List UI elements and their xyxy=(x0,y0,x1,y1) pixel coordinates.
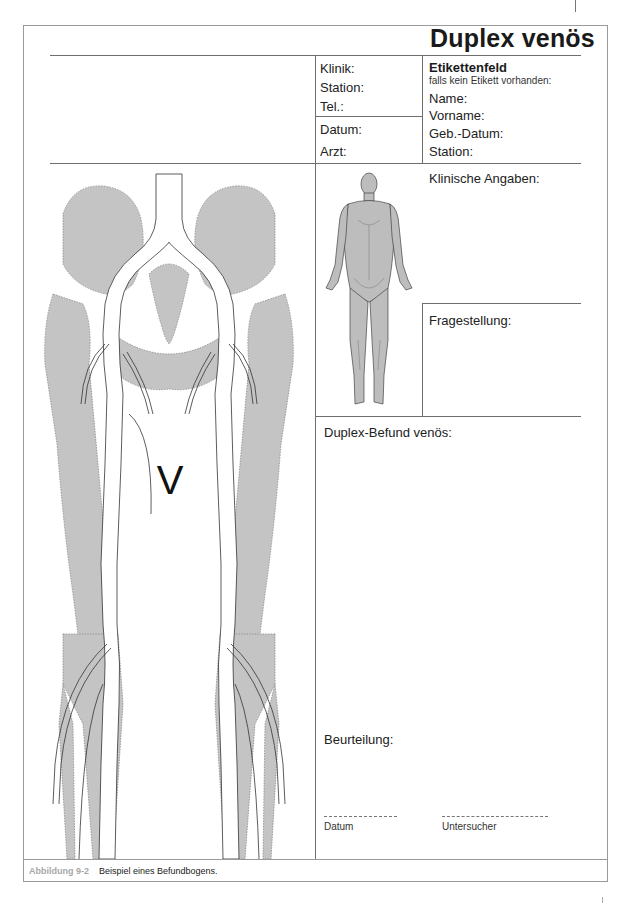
venous-anatomy-diagram: V xyxy=(23,164,315,859)
befund-top-line xyxy=(315,416,581,417)
page-crop-mark xyxy=(575,0,576,12)
geb-datum-label: Geb.-Datum: xyxy=(429,126,503,141)
untersucher-signature-label: Untersucher xyxy=(442,821,496,832)
beurteilung-label: Beurteilung: xyxy=(324,732,393,747)
name-label: Name: xyxy=(429,91,467,106)
etikettenfeld-heading: Etikettenfeld xyxy=(429,60,507,75)
station-label: Station: xyxy=(320,80,364,95)
vorname-label: Vorname: xyxy=(429,108,485,123)
etikettenfeld-subheading: falls kein Etikett vorhanden: xyxy=(429,75,551,86)
figure-number: Abbildung 9-2 xyxy=(29,866,89,876)
fragestellung-vertical-divider xyxy=(422,303,423,416)
datum-signature-line xyxy=(324,816,397,817)
arzt-label: Arzt: xyxy=(320,144,347,159)
figure-caption: Abbildung 9-2 Beispiel eines Befundbogen… xyxy=(23,859,608,882)
body-figure-icon xyxy=(318,170,420,410)
datum-signature-label: Datum xyxy=(324,821,353,832)
main-vertical-divider xyxy=(315,55,316,859)
label-vertical-divider xyxy=(422,55,423,163)
station-label-2: Station: xyxy=(429,144,473,159)
fragestellung-label: Fragestellung: xyxy=(429,313,511,328)
clinic-divider-line xyxy=(315,116,422,117)
duplex-befund-label: Duplex-Befund venös: xyxy=(324,425,452,440)
klinische-angaben-label: Klinische Angaben: xyxy=(429,171,540,186)
klinik-label: Klinik: xyxy=(320,61,355,76)
vein-label-v: V xyxy=(157,458,184,502)
tel-label: Tel.: xyxy=(320,99,344,114)
page-crop-mark-bottom xyxy=(602,897,603,903)
datum-label: Datum: xyxy=(320,122,362,137)
figure-caption-text: Beispiel eines Befundbogens. xyxy=(99,866,218,876)
form-title: Duplex venös xyxy=(430,24,595,53)
untersucher-signature-line xyxy=(442,816,548,817)
fragestellung-top-line xyxy=(422,303,581,304)
